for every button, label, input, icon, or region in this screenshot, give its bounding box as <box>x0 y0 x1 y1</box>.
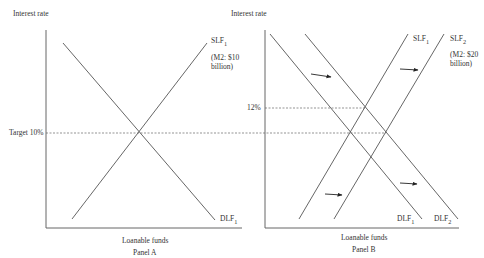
panel-a-m2-note: (M2: $10 billion) <box>211 53 239 72</box>
slf2-subscript: 2 <box>463 38 466 45</box>
panel-b-supply-curve-slf2 <box>334 34 444 219</box>
dlf1-name: DLF <box>220 214 234 223</box>
panel-b-rate-12-label: 12% <box>247 104 261 112</box>
demand-shift-arrow-icon-upper <box>311 74 331 77</box>
slf1-name: SLF <box>211 36 224 45</box>
slf2-name: SLF <box>450 34 463 43</box>
dlf1-subscript: 1 <box>411 218 414 225</box>
panel-a-x-axis-label: Loanable funds <box>122 237 168 245</box>
panel-b-axes <box>265 30 459 228</box>
supply-shift-arrow-icon-upper <box>400 69 418 70</box>
panel-b-demand-curve-dlf2 <box>305 34 458 219</box>
panel-b-title: Panel B <box>352 246 376 254</box>
panel-a-y-axis-label: Interest rate <box>13 10 49 18</box>
panel-b-supply-curve-slf1 <box>299 34 408 219</box>
demand-shift-arrow-icon-lower <box>400 183 417 184</box>
panel-b-dlf2-label: DLF2 <box>434 215 451 225</box>
panel-b-demand-curve-dlf1 <box>270 34 422 219</box>
panel-b-x-axis-label: Loanable funds <box>341 234 387 242</box>
supply-shift-arrow-icon-lower <box>325 194 342 195</box>
panel-b-slf1-label: SLF1 <box>413 35 429 45</box>
panel-a-title: Panel A <box>133 249 157 257</box>
slf1-subscript: 1 <box>426 38 429 45</box>
m2-note-line1: (M2: $20 <box>450 50 478 59</box>
dlf1-name: DLF <box>397 214 411 223</box>
panel-a-slf1-label: SLF1 <box>211 37 227 47</box>
panel-b-dlf1-label: DLF1 <box>397 215 414 225</box>
dlf2-name: DLF <box>434 214 448 223</box>
slf1-name: SLF <box>413 34 426 43</box>
panel-b-slf2-label: SLF2 <box>450 35 466 45</box>
panel-a-target-rate-label: Target 10% <box>9 129 44 137</box>
dlf1-subscript: 1 <box>234 218 237 225</box>
m2-note-line2: billion) <box>211 62 239 71</box>
m2-note-line1: (M2: $10 <box>211 53 239 62</box>
dlf2-subscript: 2 <box>448 218 451 225</box>
panel-b-y-axis-label: Interest rate <box>231 10 267 18</box>
m2-note-line2: billion) <box>450 59 478 68</box>
panel-b-m2-note: (M2: $20 billion) <box>450 50 478 69</box>
panel-a-supply-curve-slf1 <box>72 43 207 219</box>
slf1-subscript: 1 <box>224 40 227 47</box>
panel-a-dlf1-label: DLF1 <box>220 215 237 225</box>
